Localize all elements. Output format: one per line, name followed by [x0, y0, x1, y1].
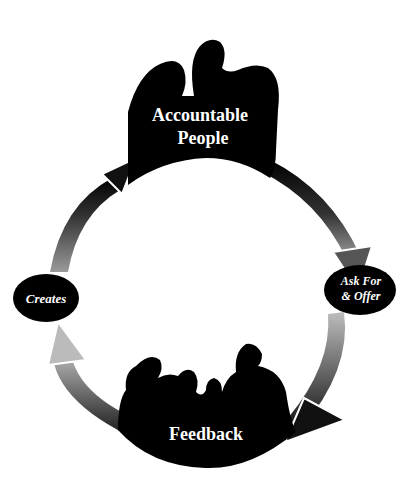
ask-for-offer-node: Ask For & Offer [324, 265, 396, 315]
feedback-cycle-diagram: Accountable People Ask For & Offer Creat… [0, 0, 412, 500]
ask-label-line2: & Offer [342, 289, 381, 303]
arrow-creates-to-accountable [50, 158, 136, 272]
creates-label: Creates [26, 291, 66, 306]
creates-node: Creates [13, 274, 79, 322]
ask-label-line1: Ask For [340, 274, 382, 288]
feedback-label: Feedback [169, 424, 243, 444]
accountable-label-line1: Accountable [152, 105, 248, 125]
arrow-ask-to-feedback [285, 312, 345, 442]
feedback-group-silhouette-icon [118, 344, 296, 468]
accountable-label-line2: People [178, 128, 229, 148]
